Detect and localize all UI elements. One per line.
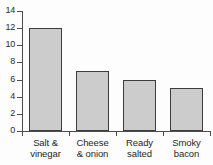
bar-chart: 02468101214 Salt &vinegarCheese& onionRe…: [0, 0, 213, 165]
y-tick-label-0: 0: [0, 126, 15, 135]
x-axis-label-2-line-1: Cheese: [69, 137, 116, 148]
y-tick-label-6: 6: [0, 75, 15, 84]
x-axis-label-4-line-2: bacon: [163, 148, 210, 159]
plot-area: 02468101214 Salt &vinegarCheese& onionRe…: [0, 0, 213, 165]
x-axis-label-3: Readysalted: [116, 137, 163, 159]
y-tick-10: [17, 45, 22, 46]
x-axis-label-2: Cheese& onion: [69, 137, 116, 159]
y-tick-14: [17, 11, 22, 12]
bar-smoky-bacon: [170, 88, 203, 131]
y-tick-label-2: 2: [0, 109, 15, 118]
x-axis-label-2-line-2: & onion: [69, 148, 116, 159]
y-tick-label-14: 14: [0, 6, 15, 15]
y-tick-label-8: 8: [0, 57, 15, 66]
x-axis-label-1-line-2: vinegar: [22, 148, 69, 159]
x-axis-label-1-line-1: Salt &: [22, 137, 69, 148]
y-tick-label-12: 12: [0, 23, 15, 32]
bar-ready-salted: [123, 80, 156, 131]
x-separator-1: [69, 131, 70, 136]
y-tick-label-4: 4: [0, 92, 15, 101]
x-axis-label-1: Salt &vinegar: [22, 137, 69, 159]
y-tick-12: [17, 28, 22, 29]
y-tick-label-10: 10: [0, 40, 15, 49]
y-tick-4: [17, 97, 22, 98]
y-tick-8: [17, 62, 22, 63]
bar-cheese-onion: [76, 71, 109, 131]
x-separator-2: [116, 131, 117, 136]
x-axis-label-3-line-1: Ready: [116, 137, 163, 148]
x-axis-label-3-line-2: salted: [116, 148, 163, 159]
y-tick-2: [17, 114, 22, 115]
y-tick-6: [17, 80, 22, 81]
x-separator-4: [210, 131, 211, 136]
y-axis-line: [22, 11, 23, 132]
x-axis-label-4: Smokybacon: [163, 137, 210, 159]
x-separator-0: [22, 131, 23, 136]
x-separator-3: [163, 131, 164, 136]
bar-salt-vinegar: [29, 28, 62, 131]
x-axis-label-4-line-1: Smoky: [163, 137, 210, 148]
